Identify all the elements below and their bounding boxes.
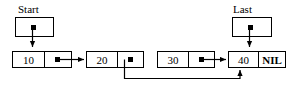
linked-list-diagram: Start Last 10 20 30 40 NIL: [0, 0, 291, 90]
wire-node20-to-node40: [125, 60, 241, 79]
connector-wires: [0, 0, 291, 90]
